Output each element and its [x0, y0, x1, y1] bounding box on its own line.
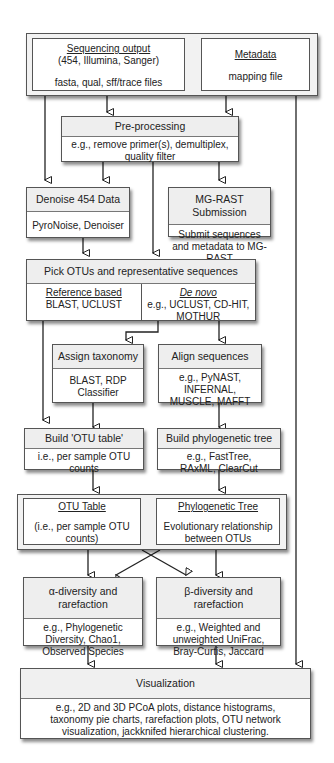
build-otu-table-title: Build 'OTU table' — [25, 429, 143, 449]
preprocessing-box: Pre-processing e.g., remove primer(s), d… — [61, 116, 239, 162]
align-sequences-body: e.g., PyNAST, INFERNAL, MUSCLE, MAFFT — [159, 369, 261, 411]
pick-otus-box: Pick OTUs and representative sequences R… — [26, 259, 256, 321]
alpha-diversity-title: α-diversity and rarefaction — [24, 578, 142, 619]
beta-diversity-body: e.g., Weighted and unweighted UniFrac, B… — [157, 619, 280, 661]
reference-based-title: Reference based — [30, 287, 138, 299]
align-sequences-box: Align sequences e.g., PyNAST, INFERNAL, … — [158, 344, 262, 403]
build-otu-table-box: Build 'OTU table' i.e., per sample OTU c… — [24, 428, 144, 470]
phylo-tree-output-title: Phylogenetic Tree — [157, 501, 279, 513]
align-sequences-title: Align sequences — [159, 345, 261, 369]
preprocessing-title: Pre-processing — [62, 117, 238, 137]
beta-diversity-box: β-diversity and rarefaction e.g., Weight… — [156, 577, 281, 646]
visualization-title: Visualization — [21, 669, 310, 699]
sequencing-output-platforms: (454, Illumina, Sanger) — [33, 55, 184, 67]
metadata-box: Metadata mapping file — [201, 38, 310, 91]
outputs-group: OTU Table (i.e., per sample OTU counts) … — [17, 494, 287, 550]
visualization-body: e.g., 2D and 3D PCoA plots, distance his… — [21, 699, 310, 741]
sequencing-output-box: Sequencing output (454, Illumina, Sanger… — [32, 38, 185, 91]
alpha-diversity-box: α-diversity and rarefaction e.g., Phylog… — [23, 577, 143, 646]
assign-taxonomy-title: Assign taxonomy — [53, 345, 143, 369]
reference-based-section: Reference based BLAST, UCLUST — [27, 284, 142, 321]
otu-table-output-body: (i.e., per sample OTU counts) — [24, 521, 140, 545]
phylo-tree-output-box: Phylogenetic Tree Evolutionary relations… — [156, 498, 280, 545]
denovo-body: e.g., UCLUST, CD-HIT, MOTHUR — [145, 299, 253, 323]
sequencing-output-files: fasta, qual, sff/trace files — [33, 77, 184, 89]
preprocessing-body: e.g., remove primer(s), demultiplex, qua… — [62, 137, 238, 165]
mgrast-title: MG-RAST Submission — [169, 188, 270, 225]
otu-table-output-title: OTU Table — [24, 501, 140, 513]
denovo-section: De novo e.g., UCLUST, CD-HIT, MOTHUR — [142, 284, 256, 321]
mgrast-box: MG-RAST Submission Submit sequences and … — [168, 187, 271, 237]
visualization-box: Visualization e.g., 2D and 3D PCoA plots… — [20, 668, 311, 739]
sequencing-output-title: Sequencing output — [33, 43, 184, 55]
phylo-tree-output-body: Evolutionary relationship between OTUs — [157, 521, 279, 545]
build-otu-table-body: i.e., per sample OTU counts — [25, 449, 143, 477]
build-tree-box: Build phylogenetic tree e.g., FastTree, … — [157, 428, 281, 470]
alpha-diversity-body: e.g., Phylogenetic Diversity, Chao1, Obs… — [24, 619, 142, 661]
denoise-box: Denoise 454 Data PyroNoise, Denoiser — [26, 187, 130, 238]
assign-taxonomy-box: Assign taxonomy BLAST, RDP Classifier — [52, 344, 144, 403]
otu-table-output-box: OTU Table (i.e., per sample OTU counts) — [23, 498, 141, 545]
denoise-title: Denoise 454 Data — [27, 188, 129, 212]
denoise-body: PyroNoise, Denoiser — [27, 212, 129, 236]
build-tree-body: e.g., FastTree, RAxML, ClearCut — [158, 449, 280, 477]
metadata-files: mapping file — [202, 71, 309, 83]
metadata-title: Metadata — [202, 49, 309, 61]
inputs-group: Sequencing output (454, Illumina, Sanger… — [26, 33, 318, 96]
denovo-title: De novo — [145, 287, 253, 299]
reference-based-body: BLAST, UCLUST — [30, 299, 138, 311]
beta-diversity-title: β-diversity and rarefaction — [157, 578, 280, 619]
pick-otus-title: Pick OTUs and representative sequences — [27, 260, 255, 284]
assign-taxonomy-body: BLAST, RDP Classifier — [53, 369, 143, 405]
build-tree-title: Build phylogenetic tree — [158, 429, 280, 449]
